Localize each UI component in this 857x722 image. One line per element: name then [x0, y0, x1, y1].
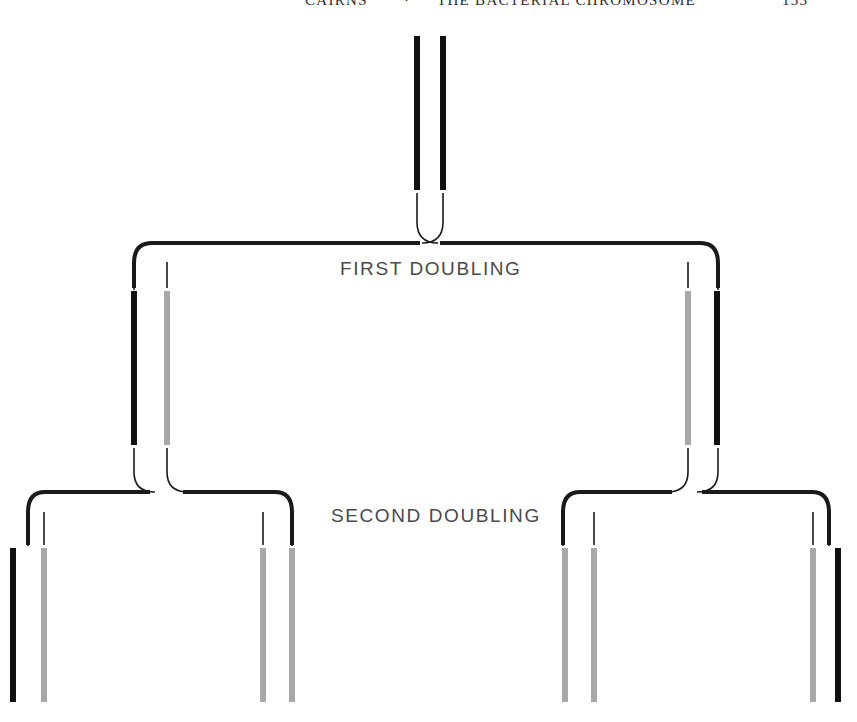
- connector-arm-left-inner: [183, 492, 292, 545]
- strand-new: [260, 548, 266, 702]
- figure-page: CAIRNS · THE BACTERIAL CHROMOSOME 133: [0, 0, 857, 722]
- connector-stem-left: [417, 193, 438, 243]
- strand-parental: [131, 291, 137, 445]
- duplex-second-3: [562, 548, 597, 702]
- duplex-first-right: [685, 291, 720, 445]
- strand-new: [591, 548, 597, 702]
- duplex-second-4: [810, 548, 841, 702]
- connector-arm-right-inner: [563, 492, 672, 545]
- duplex-parent: [414, 36, 446, 190]
- strand-parental: [835, 548, 841, 702]
- connector-stem-right-b: [667, 448, 688, 492]
- replication-diagram: [0, 0, 857, 722]
- duplex-first-left: [131, 291, 170, 445]
- connector-stem-right: [422, 193, 443, 243]
- label-first-doubling: FIRST DOUBLING: [340, 258, 521, 280]
- connector-arm-left-outer: [28, 492, 150, 545]
- connector-stem-left-b: [167, 448, 188, 492]
- connector-second-doubling-left: [28, 448, 292, 546]
- strand-new: [289, 548, 295, 702]
- duplex-second-2: [260, 548, 295, 702]
- duplex-second-1: [10, 548, 47, 702]
- label-second-doubling: SECOND DOUBLING: [331, 505, 541, 527]
- strand-new: [685, 291, 691, 445]
- strand-new: [810, 548, 816, 702]
- strand-parental: [10, 548, 16, 702]
- strand-new: [41, 548, 47, 702]
- connector-stem-right-a: [697, 448, 718, 492]
- strand-new: [562, 548, 568, 702]
- connector-arm-right-outer: [702, 492, 829, 545]
- strand-parental: [714, 291, 720, 445]
- strand-new: [164, 291, 170, 445]
- connector-second-doubling-right: [563, 448, 829, 546]
- strand-parental-right: [440, 36, 446, 190]
- strand-parental-left: [414, 36, 420, 190]
- connector-stem-left-a: [134, 448, 155, 492]
